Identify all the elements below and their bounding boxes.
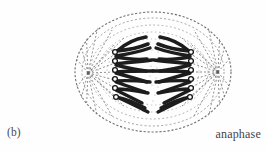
chromosome-group-left [116, 37, 153, 112]
kinetochore-left-1 [113, 50, 118, 55]
mitosis-phase-label: anaphase [215, 127, 261, 142]
left-pole-center [87, 72, 90, 75]
kinetochore-right-4 [189, 77, 194, 82]
kinetochore-right-1 [189, 50, 194, 55]
kinetochore-left-6 [114, 95, 119, 100]
kinetochore-right-2 [189, 59, 194, 64]
right-pole-center [217, 71, 220, 74]
kinetochore-left-2 [113, 59, 118, 64]
kinetochore-right-3 [189, 68, 194, 73]
kinetochore-left-4 [113, 77, 118, 82]
figure-caption-label: (b) [7, 126, 21, 138]
kinetochore-right-6 [188, 95, 193, 100]
kinetochore-left-5 [113, 86, 118, 91]
figure-panel: (b) anaphase [0, 0, 267, 153]
kinetochore-left-3 [113, 68, 118, 73]
chromosome-group-right [153, 37, 190, 112]
kinetochore-right-5 [189, 86, 194, 91]
